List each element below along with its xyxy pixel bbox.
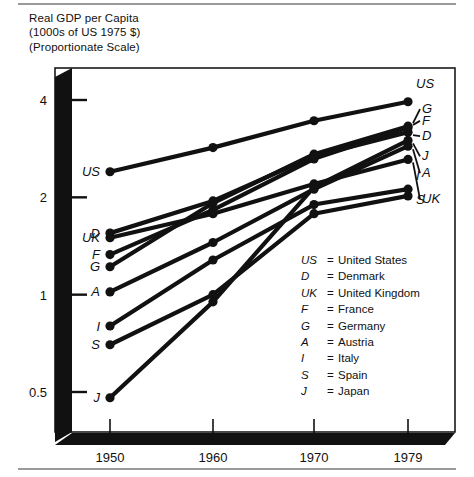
series-label-left-s: S: [91, 337, 100, 352]
data-point: [208, 238, 217, 247]
legend-country-name: Austria: [338, 334, 374, 350]
series-label-right-d: D: [422, 128, 431, 143]
legend-equals: =: [327, 334, 338, 350]
data-point: [309, 152, 318, 161]
y-axis-bar: [55, 68, 72, 442]
series-label-left-f: F: [92, 247, 101, 262]
legend-key: US: [301, 252, 327, 268]
leader-line: [413, 135, 420, 136]
legend-key: A: [301, 334, 327, 350]
legend-country-name: France: [338, 301, 374, 317]
data-point: [208, 143, 217, 152]
series-label-right-j: J: [421, 148, 429, 163]
x-tick-label: 1979: [394, 450, 423, 465]
series-label-left-j: J: [93, 390, 101, 405]
legend-row: G=Germany: [301, 318, 420, 334]
legend-key: D: [301, 268, 327, 284]
legend-row: S=Spain: [301, 367, 420, 383]
legend-row: J=Japan: [301, 383, 420, 399]
legend-country-name: Italy: [338, 350, 359, 366]
x-tick-label: 1950: [96, 450, 125, 465]
x-tick-label: 1960: [199, 450, 228, 465]
data-point: [208, 196, 217, 205]
legend-key: J: [301, 383, 327, 399]
legend-country-name: Japan: [338, 383, 369, 399]
legend-key: G: [301, 318, 327, 334]
legend-row: UK=United Kingdom: [301, 285, 420, 301]
legend-row: US=United States: [301, 252, 420, 268]
legend-country-name: Denmark: [338, 268, 385, 284]
data-point: [105, 233, 114, 242]
legend-equals: =: [327, 301, 338, 317]
series-label-left-i: I: [96, 319, 100, 334]
legend-equals: =: [327, 252, 338, 268]
data-point: [403, 142, 412, 151]
data-point: [105, 287, 114, 296]
legend-row: F=France: [301, 301, 420, 317]
legend-key: UK: [301, 285, 327, 301]
series-label-left-a: A: [90, 284, 100, 299]
legend-row: I=Italy: [301, 350, 420, 366]
data-point: [309, 209, 318, 218]
data-point: [403, 128, 412, 137]
y-tick-label: 1: [40, 288, 47, 303]
data-point: [105, 167, 114, 176]
legend-country-name: United Kingdom: [338, 285, 420, 301]
legend: US=United StatesD=DenmarkUK=United Kingd…: [301, 252, 420, 400]
legend-equals: =: [327, 350, 338, 366]
data-point: [208, 209, 217, 218]
y-tick-label: 2: [40, 190, 47, 205]
legend-equals: =: [327, 285, 338, 301]
legend-country-name: Germany: [338, 318, 385, 334]
legend-key: I: [301, 350, 327, 366]
x-axis-bar: [55, 433, 455, 445]
series-label-left-us: US: [82, 164, 100, 179]
legend-row: A=Austria: [301, 334, 420, 350]
series-label-right-uk: UK: [422, 191, 441, 206]
series-label-right-us: US: [416, 76, 434, 91]
legend-equals: =: [327, 367, 338, 383]
data-point: [309, 200, 318, 209]
data-point: [208, 255, 217, 264]
x-tick-label: 1970: [300, 450, 329, 465]
data-point: [105, 340, 114, 349]
series-label-right-f: F: [422, 113, 431, 128]
legend-equals: =: [327, 268, 338, 284]
legend-key: F: [301, 301, 327, 317]
y-tick-label: 0.5: [29, 385, 47, 400]
legend-key: S: [301, 367, 327, 383]
data-point: [403, 191, 412, 200]
series-label-right-i: I: [416, 168, 420, 183]
data-point: [208, 290, 217, 299]
data-point: [105, 262, 114, 271]
legend-row: D=Denmark: [301, 268, 420, 284]
legend-country-name: United States: [338, 252, 407, 268]
data-point: [403, 97, 412, 106]
data-point: [403, 155, 412, 164]
series-label-right-s: S: [416, 192, 425, 207]
data-point: [105, 321, 114, 330]
data-point: [309, 179, 318, 188]
legend-equals: =: [327, 383, 338, 399]
data-point: [105, 393, 114, 402]
data-point: [309, 116, 318, 125]
legend-country-name: Spain: [338, 367, 367, 383]
legend-equals: =: [327, 318, 338, 334]
y-tick-label: 4: [40, 93, 47, 108]
series-label-right-a: A: [421, 165, 431, 180]
data-point: [105, 250, 114, 259]
gdp-line-chart: 4210.51950196019701979USGFDJAUKISUSGFDJA…: [0, 0, 474, 477]
series-label-left-uk: UK: [82, 230, 101, 245]
